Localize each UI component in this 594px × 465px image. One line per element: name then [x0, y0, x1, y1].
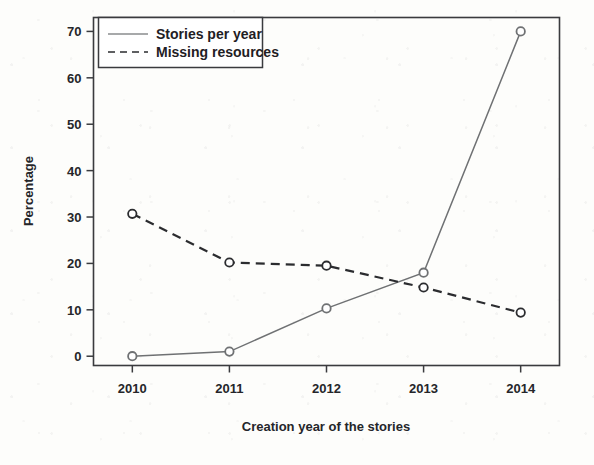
x-axis-ticks: 20102011201220132014: [118, 366, 536, 396]
y-tick-label: 30: [67, 210, 81, 225]
legend-box: [99, 18, 263, 68]
y-tick-label: 70: [67, 24, 81, 39]
data-point-stories-per-year: [419, 269, 427, 277]
x-tick-label: 2013: [409, 381, 438, 396]
chart-canvas: 010203040506070 20102011201220132014 Cre…: [0, 0, 594, 465]
legend-label-stories-per-year: Stories per year: [156, 26, 262, 42]
data-point-missing-resources: [419, 283, 427, 291]
data-point-stories-per-year: [517, 27, 525, 35]
data-point-missing-resources: [225, 258, 233, 266]
series-layer: [128, 27, 525, 360]
data-point-stories-per-year: [322, 304, 330, 312]
y-axis-title: Percentage: [21, 156, 36, 226]
y-tick-label: 50: [67, 117, 81, 132]
line-chart: 010203040506070 20102011201220132014 Cre…: [0, 0, 594, 465]
y-tick-label: 10: [67, 303, 81, 318]
y-tick-label: 0: [74, 349, 81, 364]
x-tick-label: 2010: [118, 381, 147, 396]
y-tick-label: 20: [67, 256, 81, 271]
y-axis-ticks: 010203040506070: [67, 24, 93, 364]
x-tick-label: 2014: [506, 381, 536, 396]
x-tick-label: 2011: [215, 381, 243, 396]
x-tick-label: 2012: [312, 381, 341, 396]
data-point-missing-resources: [128, 210, 136, 218]
legend-label-missing-resources: Missing resources: [156, 44, 279, 60]
y-tick-label: 60: [67, 71, 81, 86]
data-point-missing-resources: [517, 308, 525, 316]
data-point-missing-resources: [322, 262, 330, 270]
y-tick-label: 40: [67, 164, 81, 179]
x-axis-title: Creation year of the stories: [242, 419, 410, 434]
data-point-stories-per-year: [225, 347, 233, 355]
data-point-stories-per-year: [128, 352, 136, 360]
chart-legend: Stories per year Missing resources: [99, 18, 280, 68]
